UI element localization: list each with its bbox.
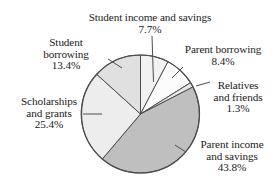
pie-label-percent: 1.3% [198,103,278,115]
pie-label-parent-borrowing: Parent borrowing 8.4% [170,44,276,67]
pie-label-percent: 7.7% [74,24,226,36]
pie-label-student-income-and-savings: Student income and savings 7.7% [74,12,226,35]
pie-label-student-borrowing: Student borrowing 13.4% [24,37,108,72]
pie-label-percent: 13.4% [24,60,108,72]
pie-label-scholarships-and-grants: Scholarships and grants 25.4% [2,96,96,131]
pie-label-text: Student income and savings [89,11,212,23]
pie-label-percent: 43.8% [186,162,278,174]
pie-label-text-line2: borrowing [43,48,89,60]
pie-label-text-line1: Scholarships [21,95,77,107]
pie-label-text-line2: and grants [26,107,71,119]
pie-label-text-line1: Relatives [218,79,259,91]
pie-label-parent-income-and-savings: Parent income and savings 43.8% [186,139,278,174]
pie-label-text-line1: Parent income [200,138,263,150]
pie-label-text-line1: Student [49,36,83,48]
pie-label-text-line2: and friends [214,91,263,103]
pie-label-text-line2: and savings [206,150,257,162]
pie-label-text: Parent borrowing [185,43,261,55]
pie-label-relatives-and-friends: Relatives and friends 1.3% [198,80,278,115]
pie-label-percent: 25.4% [2,119,96,131]
pie-label-percent: 8.4% [170,56,276,68]
pie-chart-figure: Student income and savings 7.7% Student … [0,0,279,187]
